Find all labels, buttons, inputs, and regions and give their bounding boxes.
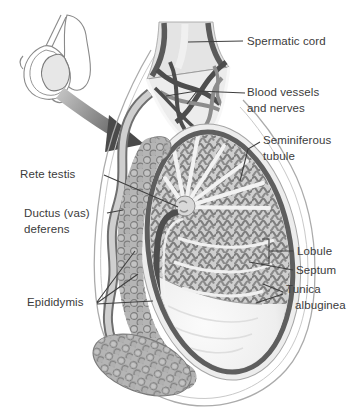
label-spermatic-cord: Spermatic cord xyxy=(247,34,326,50)
label-rete-testis: Rete testis xyxy=(20,167,75,183)
anatomy-illustration xyxy=(0,0,362,409)
label-tunica-albuginea: Tunica albuginea xyxy=(286,282,346,313)
body-inset-sketch xyxy=(20,15,91,103)
label-seminiferous-tubule: Seminiferous tubule xyxy=(263,133,331,164)
testis-anatomy-figure: Spermatic cord Blood vessels and nerves … xyxy=(0,0,362,409)
label-epididymis: Epididymis xyxy=(27,295,84,311)
label-septum: Septum xyxy=(296,263,336,279)
label-ductus-deferens: Ductus (vas) deferens xyxy=(24,206,90,237)
inset-testis xyxy=(41,54,69,91)
label-blood-vessels: Blood vessels and nerves xyxy=(247,85,319,116)
inset-vas-hook xyxy=(20,56,23,69)
label-lobule: Lobule xyxy=(297,244,332,260)
